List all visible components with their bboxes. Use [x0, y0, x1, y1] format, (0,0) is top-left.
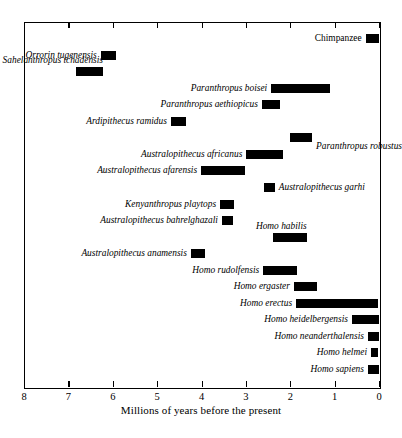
- tick-mark-top: [379, 22, 380, 28]
- taxon-row: Homo sapiens: [24, 363, 379, 376]
- taxon-range-bar[interactable]: [271, 84, 330, 93]
- tick-label: 8: [12, 391, 36, 402]
- tick-mark-bottom: [379, 381, 380, 387]
- taxon-label: Australopithecus bahrelghazali: [100, 214, 218, 227]
- taxon-label: Paranthropus aethiopicus: [161, 98, 258, 111]
- taxon-range-bar[interactable]: [366, 34, 379, 43]
- taxon-row: Homo rudolfensis: [24, 264, 379, 277]
- tick-mark-top: [157, 22, 158, 28]
- tick-mark-bottom: [68, 381, 69, 387]
- taxon-label: Homo ergaster: [234, 280, 290, 293]
- taxon-row: Homo ergaster: [24, 280, 379, 293]
- taxon-range-bar[interactable]: [76, 67, 103, 76]
- tick-label: 3: [234, 391, 258, 402]
- tick-label: 6: [101, 391, 125, 402]
- taxon-range-bar[interactable]: [263, 266, 297, 275]
- tick-mark-top: [246, 22, 247, 28]
- taxon-row: Chimpanzee: [24, 32, 379, 45]
- taxon-label: Australopithecus afarensis: [97, 164, 197, 177]
- taxon-row: Homo neanderthalensis: [24, 330, 379, 343]
- tick-label: 0: [367, 391, 391, 402]
- taxon-label: Homo erectus: [240, 297, 292, 310]
- taxon-range-bar[interactable]: [171, 117, 186, 126]
- taxon-row: Kenyanthropus playtops: [24, 198, 379, 211]
- taxon-label: Homo habilis: [256, 220, 307, 233]
- taxon-range-bar[interactable]: [191, 249, 205, 258]
- taxon-row: Paranthropus boisei: [24, 82, 379, 95]
- tick-mark-top: [68, 22, 69, 28]
- taxon-range-bar[interactable]: [101, 51, 116, 60]
- taxon-range-bar[interactable]: [246, 150, 283, 159]
- taxon-row: Australopithecus africanus: [24, 148, 379, 161]
- tick-mark-bottom: [24, 381, 25, 387]
- taxon-range-bar[interactable]: [222, 216, 233, 225]
- tick-mark-bottom: [246, 381, 247, 387]
- taxon-row: Homo heidelbergensis: [24, 313, 379, 326]
- tick-mark-bottom: [290, 381, 291, 387]
- tick-mark-top: [290, 22, 291, 28]
- taxon-label: Homo rudolfensis: [192, 264, 259, 277]
- tick-label: 5: [145, 391, 169, 402]
- taxon-label: Australopithecus anamensis: [81, 247, 186, 260]
- taxon-label: Homo helmei: [317, 346, 367, 359]
- tick-label: 7: [56, 391, 80, 402]
- taxon-label: Australopithecus garhi: [279, 181, 365, 194]
- taxon-range-bar[interactable]: [368, 332, 379, 341]
- taxon-range-bar[interactable]: [296, 299, 378, 308]
- taxon-row: Homo habilis: [24, 231, 379, 244]
- taxon-label: Ardipithecus ramidus: [86, 115, 167, 128]
- taxon-row: Australopithecus anamensis: [24, 247, 379, 260]
- taxon-row: Australopithecus garhi: [24, 181, 379, 194]
- taxon-label: Chimpanzee: [315, 32, 362, 45]
- x-axis-title: Millions of years before the present: [0, 404, 402, 416]
- tick-mark-bottom: [202, 381, 203, 387]
- taxon-row: Paranthropus robustus: [24, 131, 379, 144]
- taxon-range-bar[interactable]: [201, 166, 245, 175]
- taxon-range-bar[interactable]: [220, 200, 234, 209]
- taxon-row: Homo erectus: [24, 297, 379, 310]
- taxon-label: Paranthropus boisei: [191, 82, 267, 95]
- tick-mark-top: [202, 22, 203, 28]
- taxon-label: Australopithecus africanus: [141, 148, 242, 161]
- taxon-label: Sahelanthropus tchadensis: [3, 54, 103, 67]
- taxon-range-bar[interactable]: [262, 100, 280, 109]
- taxon-range-bar[interactable]: [371, 348, 378, 357]
- taxon-label: Homo heidelbergensis: [264, 313, 348, 326]
- taxon-label: Homo neanderthalensis: [275, 330, 364, 343]
- taxon-label: Homo sapiens: [311, 363, 364, 376]
- taxon-row: Australopithecus bahrelghazali: [24, 214, 379, 227]
- taxon-range-bar[interactable]: [273, 233, 306, 242]
- tick-mark-top: [113, 22, 114, 28]
- taxon-row: Australopithecus afarensis: [24, 164, 379, 177]
- taxon-label: Kenyanthropus playtops: [125, 198, 216, 211]
- taxon-range-bar[interactable]: [294, 282, 317, 291]
- tick-mark-bottom: [335, 381, 336, 387]
- taxon-range-bar[interactable]: [290, 133, 312, 142]
- tick-mark-top: [335, 22, 336, 28]
- tick-label: 2: [278, 391, 302, 402]
- tick-mark-top: [24, 22, 25, 28]
- taxon-row: Ardipithecus ramidus: [24, 115, 379, 128]
- taxon-row: Homo helmei: [24, 346, 379, 359]
- taxon-range-bar[interactable]: [368, 365, 379, 374]
- plot-area: ChimpanzeeOrrorin tugenensisSahelanthrop…: [24, 22, 379, 387]
- taxon-row: Sahelanthropus tchadensis: [24, 65, 379, 78]
- taxon-row: Paranthropus aethiopicus: [24, 98, 379, 111]
- taxon-range-bar[interactable]: [352, 315, 379, 324]
- tick-label: 4: [190, 391, 214, 402]
- tick-mark-bottom: [113, 381, 114, 387]
- tick-mark-bottom: [157, 381, 158, 387]
- hominin-timeline-chart: ChimpanzeeOrrorin tugenensisSahelanthrop…: [0, 0, 402, 438]
- taxon-range-bar[interactable]: [264, 183, 275, 192]
- tick-label: 1: [323, 391, 347, 402]
